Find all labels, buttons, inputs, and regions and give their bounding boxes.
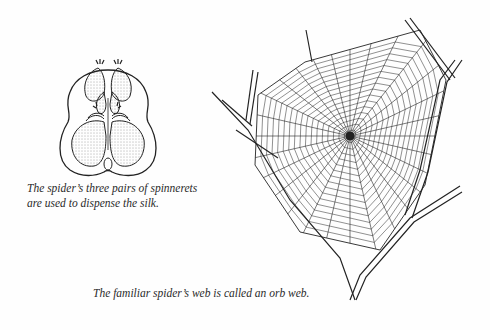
- web-spirals: [261, 42, 438, 242]
- spinnerets-illustration: [60, 59, 156, 176]
- branches: [212, 18, 462, 300]
- illustration-page: The spider’s three pairs of spinnerets a…: [0, 0, 490, 330]
- spinnerets-caption-line-2: are used to dispense the silk.: [27, 196, 197, 211]
- orb-web-caption: The familiar spider’s web is called an o…: [93, 286, 309, 301]
- orb-web-illustration: [212, 18, 462, 300]
- spinnerets-caption: The spider’s three pairs of spinnerets a…: [27, 181, 197, 211]
- spinnerets-caption-line-1: The spider’s three pairs of spinnerets: [27, 181, 197, 196]
- illustrations: [0, 0, 490, 330]
